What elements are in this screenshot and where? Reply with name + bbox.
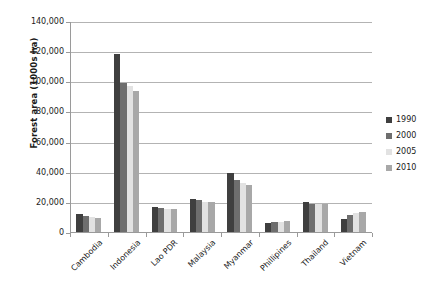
y-axis-tick-label: 0 (0, 229, 64, 237)
legend-swatch-2010 (386, 165, 392, 171)
x-axis-tick-mark (259, 233, 260, 237)
legend-item-label: 2010 (396, 164, 416, 172)
legend-item[interactable]: 1990 (386, 112, 438, 128)
x-axis-tick-mark (108, 233, 109, 237)
plot-area (70, 22, 372, 233)
legend-item-label: 2000 (396, 132, 416, 140)
legend-item[interactable]: 2005 (386, 144, 438, 160)
x-axis-tick-mark (297, 233, 298, 237)
x-axis-tick-mark (372, 233, 373, 237)
x-axis-tick-mark (183, 233, 184, 237)
x-axis-tick-mark (146, 233, 147, 237)
legend-item-label: 2005 (396, 148, 416, 156)
chart-legend: 1990200020052010 (386, 112, 438, 176)
y-axis-title: Forest area (1000s ha) (29, 13, 39, 173)
legend-swatch-2005 (386, 149, 392, 155)
y-axis-tick-label: 100,000 (0, 78, 64, 86)
y-axis-tick-label: 140,000 (0, 18, 64, 26)
plot-frame (70, 22, 372, 233)
legend-item[interactable]: 2010 (386, 160, 438, 176)
bar-chart: Forest area (1000s ha) 020,00040,00060,0… (0, 0, 438, 289)
legend-item-label: 1990 (396, 116, 416, 124)
y-axis-tick-label: 120,000 (0, 48, 64, 56)
legend-swatch-1990 (386, 117, 392, 123)
y-axis-tick-label: 40,000 (0, 169, 64, 177)
y-axis-tick-label: 20,000 (0, 199, 64, 207)
y-axis-tick-label: 60,000 (0, 139, 64, 147)
legend-item[interactable]: 2000 (386, 128, 438, 144)
y-axis-tick-label: 80,000 (0, 108, 64, 116)
x-axis-tick-mark (70, 233, 71, 237)
x-axis-tick-mark (334, 233, 335, 237)
x-axis-tick-mark (221, 233, 222, 237)
legend-swatch-2000 (386, 133, 392, 139)
